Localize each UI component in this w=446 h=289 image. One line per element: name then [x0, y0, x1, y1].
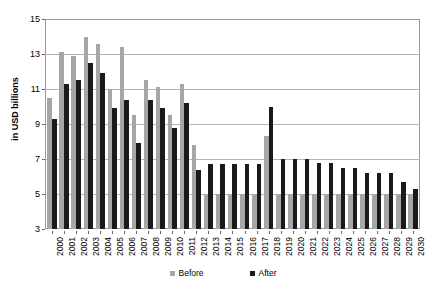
x-axis-tick-mark — [232, 231, 233, 234]
bar-group — [263, 19, 275, 229]
bar-after-2017 — [257, 164, 262, 229]
x-axis-slot: 2007 — [130, 231, 142, 271]
x-axis-slot: 2011 — [178, 231, 190, 271]
x-axis-slot: 2008 — [142, 231, 154, 271]
chart-legend: Before After — [0, 268, 446, 278]
x-axis-tick-mark — [124, 231, 125, 234]
x-axis-slot: 2004 — [94, 231, 106, 271]
bar-after-2022 — [317, 163, 322, 230]
x-axis-slot: 2021 — [299, 231, 311, 271]
bar-after-2008 — [148, 100, 153, 230]
bar-after-2028 — [389, 173, 394, 229]
bar-group — [82, 19, 94, 229]
bar-group — [287, 19, 299, 229]
bar-group — [299, 19, 311, 229]
x-axis-slot: 2010 — [166, 231, 178, 271]
bar-group — [166, 19, 178, 229]
x-axis-tick-mark — [389, 231, 390, 234]
x-axis-slot: 2018 — [263, 231, 275, 271]
bar-group — [359, 19, 371, 229]
x-axis-labels: 2000200120022003200420052006200720082009… — [45, 231, 420, 271]
x-axis-slot: 2015 — [226, 231, 238, 271]
x-axis-tick-mark — [341, 231, 342, 234]
x-axis-tick-mark — [208, 231, 209, 234]
bar-group — [395, 19, 407, 229]
x-axis-tick-mark — [148, 231, 149, 234]
bar-after-2013 — [208, 164, 213, 229]
bar-after-2010 — [172, 128, 177, 230]
bar-group — [202, 19, 214, 229]
y-axis-tick-label: 15 — [30, 15, 40, 24]
x-axis-tick-mark — [184, 231, 185, 234]
x-axis-tick-mark — [413, 231, 414, 234]
legend-item-after: After — [250, 268, 277, 278]
y-axis-tick-mark — [42, 229, 45, 230]
bar-after-2009 — [160, 108, 165, 229]
x-axis-slot: 2001 — [58, 231, 70, 271]
bar-after-2023 — [329, 163, 334, 230]
x-axis-tick-mark — [76, 231, 77, 234]
bar-after-2029 — [401, 182, 406, 229]
bar-group — [70, 19, 82, 229]
x-axis-tick-mark — [317, 231, 318, 234]
x-axis-slot: 2000 — [46, 231, 58, 271]
x-axis-slot: 2016 — [239, 231, 251, 271]
bar-group — [323, 19, 335, 229]
bar-after-2000 — [52, 119, 57, 229]
x-axis-slot: 2027 — [371, 231, 383, 271]
x-axis-tick-mark — [52, 231, 53, 234]
legend-label-after: After — [259, 268, 277, 278]
bar-group — [142, 19, 154, 229]
bar-group — [190, 19, 202, 229]
legend-swatch-after-icon — [250, 271, 255, 276]
bar-after-2014 — [220, 164, 225, 229]
bar-group — [58, 19, 70, 229]
bar-group — [371, 19, 383, 229]
x-axis-tick-mark — [136, 231, 137, 234]
x-axis-tick-mark — [269, 231, 270, 234]
x-axis-slot: 2019 — [275, 231, 287, 271]
x-axis-tick-mark — [196, 231, 197, 234]
x-axis-tick-mark — [88, 231, 89, 234]
x-axis-slot: 2014 — [214, 231, 226, 271]
legend-label-before: Before — [179, 268, 204, 278]
bar-after-2003 — [88, 63, 93, 229]
x-axis-slot: 2017 — [251, 231, 263, 271]
x-axis-slot: 2006 — [118, 231, 130, 271]
y-axis-title: in USD billions — [10, 64, 20, 154]
x-axis-slot: 2028 — [383, 231, 395, 271]
x-axis-tick-mark — [64, 231, 65, 234]
x-axis-tick-mark — [377, 231, 378, 234]
bar-group — [275, 19, 287, 229]
x-axis-slot: 2005 — [106, 231, 118, 271]
x-axis-slot: 2029 — [395, 231, 407, 271]
x-axis-slot: 2022 — [311, 231, 323, 271]
x-axis-tick-label: 2030 — [417, 237, 426, 256]
bar-after-2012 — [196, 170, 201, 230]
bar-chart: in USD billions 3579111315 2000200120022… — [0, 0, 446, 289]
x-axis-tick-mark — [257, 231, 258, 234]
x-axis-tick-mark — [353, 231, 354, 234]
bar-group — [130, 19, 142, 229]
bar-after-2026 — [365, 173, 370, 229]
x-axis-tick-mark — [160, 231, 161, 234]
bar-group — [178, 19, 190, 229]
x-axis-tick-mark — [172, 231, 173, 234]
x-axis-tick-mark — [245, 231, 246, 234]
bar-after-2002 — [76, 80, 81, 229]
x-axis-slot: 2024 — [335, 231, 347, 271]
x-axis-slot: 2009 — [154, 231, 166, 271]
x-axis-slot: 2030 — [407, 231, 419, 271]
bar-group — [154, 19, 166, 229]
bar-group — [239, 19, 251, 229]
bar-after-2016 — [245, 164, 250, 229]
bar-after-2030 — [413, 189, 418, 229]
bar-after-2020 — [293, 159, 298, 229]
y-axis-tick-label: 5 — [35, 190, 40, 199]
bar-group — [407, 19, 419, 229]
bar-group — [214, 19, 226, 229]
bar-group — [335, 19, 347, 229]
x-axis-slot: 2002 — [70, 231, 82, 271]
bar-after-2027 — [377, 173, 382, 229]
x-axis-tick-mark — [329, 231, 330, 234]
